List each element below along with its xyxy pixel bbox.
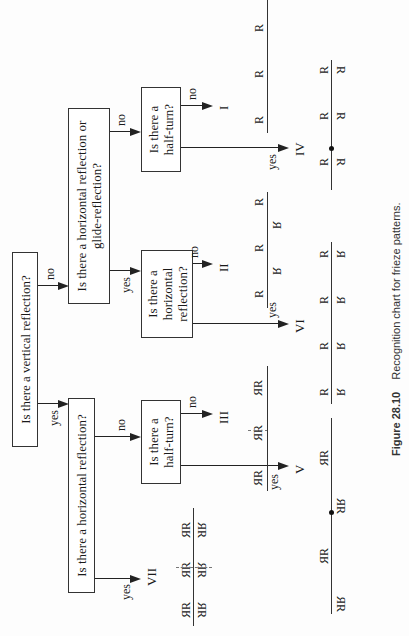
right-halfturn-question-box: Is there a half-turn? [141, 87, 181, 172]
pattern-VI-axis [331, 242, 332, 404]
rht-yes-line [181, 147, 279, 148]
left-no-label: no [115, 419, 127, 431]
root-yes-line [38, 403, 60, 404]
pattern-II-axis [267, 192, 268, 308]
left-no-arrow [130, 433, 141, 441]
right-halfturn-question-text: Is there a half-turn? [146, 92, 176, 167]
right-no-arrow [130, 128, 141, 136]
rht-no-arrow [202, 102, 213, 110]
pattern-V-label: V [293, 465, 306, 474]
mh-yes-line [193, 323, 279, 324]
pattern-IV-label: IV [293, 142, 306, 156]
lht-no-arrow [202, 410, 213, 418]
rht-yes-label: yes [266, 154, 278, 170]
frieze-recognition-chart: Is there a vertical reflection? yes no I… [0, 0, 409, 636]
pattern-VII-mirror [176, 567, 212, 568]
root-no-label: no [44, 268, 56, 280]
root-no-line [38, 285, 60, 286]
pattern-III-mirror [248, 430, 268, 431]
pattern-II-label: II [217, 263, 230, 272]
root-question-text: Is there a vertical reflection? [18, 275, 33, 424]
pattern-V-axis [331, 418, 332, 614]
figure-caption: Figure 28.10Recognition chart for frieze… [390, 202, 402, 456]
figure-number: Figure 28.10 [390, 392, 402, 456]
pattern-IV-halfturn-center [329, 146, 334, 151]
left-yes-line [95, 578, 131, 579]
left-horizontal-question-box: Is there a horizontal reflection? [68, 398, 95, 593]
right-horizontal-glide-question-text: Is there a horizontal reflection or glid… [74, 113, 104, 299]
mid-horizontal-question-box: Is there a horizontal reflection? [141, 250, 193, 338]
right-no-label: no [115, 114, 127, 126]
rht-no-label: no [186, 88, 198, 100]
left-yes-label: yes [120, 584, 132, 600]
mh-no-arrow [202, 260, 213, 268]
lht-yes-label: yes [268, 474, 280, 490]
root-question-box: Is there a vertical reflection? [12, 252, 38, 447]
lht-yes-arrow [278, 462, 289, 470]
mh-no-label: no [188, 246, 200, 258]
mh-yes-arrow [278, 320, 289, 328]
mid-horizontal-question-text: Is there a horizontal reflection? [145, 255, 190, 333]
left-no-line [95, 436, 131, 437]
right-horizontal-glide-question-box: Is there a horizontal reflection or glid… [68, 108, 110, 304]
left-horizontal-question-text: Is there a horizontal reflection? [74, 414, 89, 576]
figure-caption-text: Recognition chart for frieze patterns. [390, 202, 402, 379]
lht-no-line [181, 413, 203, 414]
pattern-I-label: I [217, 106, 230, 110]
pattern-III-label: III [217, 411, 230, 424]
root-yes-label: yes [48, 410, 60, 426]
lht-yes-line [181, 465, 279, 466]
pattern-I-axis [267, 0, 268, 133]
lht-no-label: no [186, 396, 198, 408]
pattern-VII-label: VII [145, 568, 158, 586]
rht-no-line [181, 105, 203, 106]
right-yes-line [110, 270, 131, 271]
pattern-III-axis [267, 366, 268, 491]
right-yes-arrow [130, 267, 141, 275]
pattern-VI-label: VI [293, 319, 306, 333]
left-yes-arrow [130, 575, 141, 583]
right-no-line [110, 131, 131, 132]
left-halfturn-question-text: Is there a half-turn? [146, 405, 176, 479]
right-yes-label: yes [120, 277, 132, 293]
rht-yes-arrow [278, 144, 289, 152]
pattern-IV-axis [331, 60, 332, 190]
left-halfturn-question-box: Is there a half-turn? [141, 400, 181, 484]
